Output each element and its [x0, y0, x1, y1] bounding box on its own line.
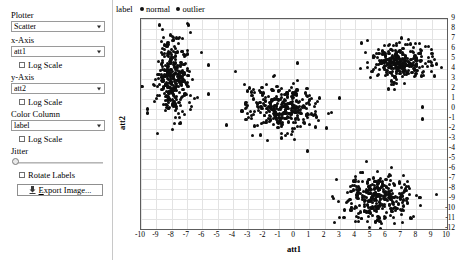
data-point [346, 191, 349, 194]
data-point-outlier [187, 23, 190, 26]
data-point [402, 198, 405, 201]
legend-item-normal[interactable]: normal [140, 4, 171, 14]
data-point [265, 83, 268, 86]
data-point [286, 91, 289, 94]
data-point [376, 74, 379, 77]
color-column-log-scale-checkbox[interactable]: Log Scale [19, 134, 105, 144]
data-point [363, 200, 366, 203]
data-point [378, 188, 381, 191]
data-point [342, 216, 345, 219]
data-point [402, 174, 405, 177]
data-point [386, 73, 389, 76]
data-point [318, 96, 321, 99]
data-point [378, 220, 381, 223]
rotate-labels-checkbox[interactable]: Rotate Labels [19, 170, 105, 180]
data-point-outlier [421, 105, 424, 108]
jitter-slider-thumb[interactable] [12, 158, 19, 165]
plotter-select[interactable]: Scatter [11, 21, 105, 32]
data-point [253, 124, 256, 127]
data-point [388, 43, 391, 46]
data-point [381, 182, 384, 185]
x-axis-title: att1 [140, 244, 448, 254]
data-point [252, 97, 255, 100]
data-point [333, 221, 336, 224]
data-point [256, 124, 259, 127]
y-axis-tick-label: -4 [431, 144, 455, 152]
data-point [404, 187, 407, 190]
data-point-outlier [306, 149, 309, 152]
data-point [337, 200, 340, 203]
data-point [374, 221, 377, 224]
data-point [161, 78, 164, 81]
data-point [169, 33, 172, 36]
gridline-vertical [233, 19, 234, 229]
data-point [295, 99, 298, 102]
data-point [191, 78, 194, 81]
data-point [268, 101, 271, 104]
x-axis-select[interactable]: att1 [11, 46, 105, 57]
y-axis-select[interactable]: att2 [11, 83, 105, 94]
checkbox-icon [19, 172, 25, 178]
data-point [157, 60, 160, 63]
x-axis-tick-label: 10 [436, 231, 456, 239]
data-point [389, 179, 392, 182]
data-point [176, 64, 179, 67]
y-axis-tick-label: -5 [431, 154, 455, 162]
data-point [426, 65, 429, 68]
data-point [166, 84, 169, 87]
data-point [260, 86, 263, 89]
data-point-outlier [421, 117, 424, 120]
data-point [409, 42, 412, 45]
data-point [186, 84, 189, 87]
data-point [352, 188, 355, 191]
x-axis-log-scale-checkbox[interactable]: Log Scale [19, 60, 105, 70]
y-axis-tick-label: -6 [431, 164, 455, 172]
data-point [414, 42, 417, 45]
data-point [156, 85, 159, 88]
y-axis-tick-label: 3 [431, 74, 455, 82]
data-point [392, 44, 395, 47]
legend-item-outlier[interactable]: outlier [176, 4, 205, 14]
data-point [369, 211, 372, 214]
data-point [427, 56, 430, 59]
data-point [379, 202, 382, 205]
legend-label-normal: normal [146, 4, 170, 14]
data-point [375, 63, 378, 66]
data-point [365, 160, 368, 163]
data-point [403, 82, 406, 85]
data-point [259, 91, 262, 94]
data-point [384, 55, 387, 58]
data-point [366, 220, 369, 223]
jitter-slider[interactable] [12, 157, 105, 167]
data-point [276, 126, 279, 129]
y-axis-tick-label: -3 [431, 134, 455, 142]
export-image-icon [29, 186, 36, 194]
data-point [358, 204, 361, 207]
data-point [389, 214, 392, 217]
y-axis-log-scale-label: Log Scale [28, 98, 62, 107]
export-image-button[interactable]: Export Image... [17, 184, 103, 196]
data-point [175, 84, 178, 87]
data-point [244, 101, 247, 104]
data-point-outlier [360, 41, 363, 44]
color-column-select[interactable]: label [11, 120, 105, 131]
data-point [360, 217, 363, 220]
data-point [308, 103, 311, 106]
data-point [403, 183, 406, 186]
gridline-vertical [340, 19, 341, 229]
data-point [377, 48, 380, 51]
gridline-horizontal [141, 219, 447, 220]
data-point [293, 110, 296, 113]
data-point [168, 81, 171, 84]
data-point [385, 69, 388, 72]
data-point [343, 209, 346, 212]
data-point [361, 171, 364, 174]
data-point [327, 112, 330, 115]
plot-area[interactable] [140, 18, 448, 230]
data-point [375, 52, 378, 55]
gridline-vertical [263, 19, 264, 229]
data-point [359, 210, 362, 213]
y-axis-log-scale-checkbox[interactable]: Log Scale [19, 97, 105, 107]
y-axis-tick-label: -11 [431, 214, 455, 222]
data-point [286, 102, 289, 105]
